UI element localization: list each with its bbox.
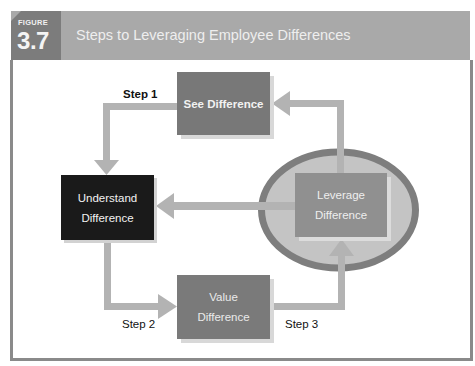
node-understand-difference: Understand Difference: [61, 175, 154, 240]
node-see-difference: See Difference: [177, 72, 270, 135]
node-leverage-difference: Leverage Difference: [295, 173, 387, 237]
node-value-label-2: Difference: [197, 307, 249, 327]
node-leverage-label-2: Difference: [315, 205, 367, 225]
step1-arrow: [94, 103, 177, 175]
node-value-difference: Value Difference: [177, 275, 270, 339]
node-understand-label-2: Difference: [81, 208, 133, 228]
node-leverage-label-1: Leverage: [317, 185, 365, 205]
step2-arrow: [104, 240, 177, 319]
step1-label: Step 1: [123, 88, 158, 100]
node-see-label: See Difference: [184, 94, 264, 114]
node-understand-label-1: Understand: [78, 188, 137, 208]
node-value-label-1: Value: [209, 287, 238, 307]
step3-label: Step 3: [285, 318, 318, 330]
step2-label: Step 2: [122, 318, 155, 330]
